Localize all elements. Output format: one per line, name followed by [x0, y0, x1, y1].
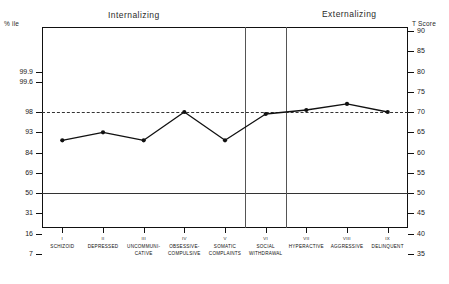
profile-markers	[60, 102, 390, 143]
data-point-III	[142, 138, 146, 142]
profile-chart: Internalizing Externalizing % ile T Scor…	[0, 0, 449, 284]
profile-line	[62, 104, 387, 140]
data-point-IX	[386, 110, 390, 114]
data-series	[0, 0, 449, 284]
data-point-V	[223, 138, 227, 142]
data-point-VI	[264, 112, 268, 116]
data-point-VIII	[345, 102, 349, 106]
data-point-IV	[182, 110, 186, 114]
data-point-I	[60, 138, 64, 142]
data-point-VII	[304, 108, 308, 112]
data-point-II	[101, 130, 105, 134]
